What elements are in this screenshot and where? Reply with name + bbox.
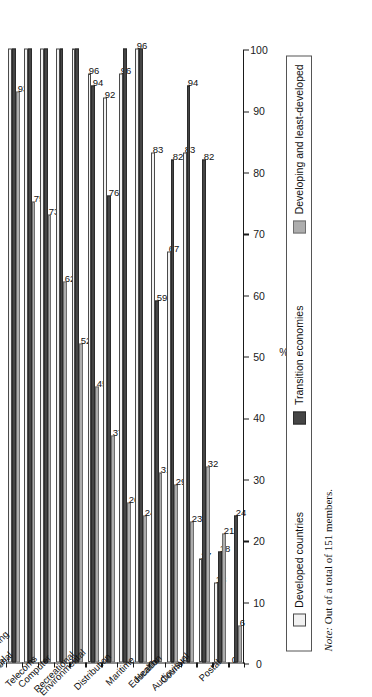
bar-group: 75 — [22, 49, 38, 662]
bar — [79, 343, 83, 662]
value-tick-label: 30 — [247, 473, 271, 485]
bar-value-label: 6 — [240, 617, 245, 627]
value-tick-label: 0 — [247, 657, 271, 669]
value-tick-label: 50 — [247, 350, 271, 362]
value-tick-label: 40 — [247, 411, 271, 423]
bar — [206, 466, 210, 662]
bar — [238, 625, 242, 662]
bar — [190, 521, 194, 662]
bar — [16, 91, 20, 662]
bar-group: 927637 — [101, 49, 117, 662]
legend-label: Transition economies — [293, 305, 305, 404]
bar — [143, 515, 147, 662]
chart-canvas: 9375736252969445927637962696248359316782… — [0, 0, 372, 697]
note-text: Out of a total of 151 members. — [322, 488, 334, 623]
bar — [222, 533, 226, 662]
note-prefix: Note: — [322, 627, 334, 651]
bar-group: 0246 — [228, 49, 244, 662]
bar-group: 678229 — [165, 49, 181, 662]
legend-swatch — [293, 220, 306, 233]
category-tick — [196, 662, 197, 667]
bar — [127, 502, 131, 662]
legend-item: Developed countries — [291, 511, 307, 626]
legend-item: Developing and least-developed — [291, 64, 307, 233]
bar-group: 52 — [69, 49, 85, 662]
value-tick-label: 10 — [247, 596, 271, 608]
bar-group: 835931 — [149, 49, 165, 662]
bar — [95, 386, 99, 662]
category-tick — [228, 662, 229, 667]
value-tick-label: 70 — [247, 227, 271, 239]
bar-value-label: 96 — [89, 65, 100, 75]
chart-figure: 9375736252969445927637962696248359316782… — [0, 0, 372, 697]
plot-area: 9375736252969445927637962696248359316782… — [6, 49, 244, 663]
category-tick — [244, 662, 245, 667]
bar — [159, 472, 163, 662]
legend-label: Developed countries — [293, 511, 305, 607]
legend-item: Transition economies — [291, 305, 307, 423]
bar-group: 93 — [6, 49, 22, 662]
value-tick-label: 60 — [247, 289, 271, 301]
bar — [111, 435, 115, 662]
value-tick-label: 80 — [247, 166, 271, 178]
chart-legend: Developed countriesTransition economiesD… — [286, 55, 312, 651]
legend-label: Developing and least-developed — [293, 64, 305, 214]
category-tick — [85, 662, 86, 667]
bar-group: 178232 — [196, 49, 212, 662]
value-tick-label: 90 — [247, 104, 271, 116]
bar-group: 131821 — [212, 49, 228, 662]
bar-group: 839423 — [181, 49, 197, 662]
chart-note: Note: Out of a total of 151 members. — [322, 488, 334, 651]
bar — [174, 484, 178, 662]
bar-group: 9626 — [117, 49, 133, 662]
bar-value-label: 24 — [236, 507, 247, 517]
legend-swatch — [293, 411, 306, 424]
bar-value-label: 83 — [153, 145, 164, 155]
bar — [32, 202, 36, 663]
bar-group: 62 — [54, 49, 70, 662]
bar — [63, 281, 67, 662]
bars-container: 9375736252969445927637962696248359316782… — [6, 49, 243, 662]
bar — [48, 214, 52, 662]
legend-swatch — [293, 613, 306, 626]
value-tick-label: 100 — [247, 43, 271, 55]
bar-group: 9624 — [133, 49, 149, 662]
bar-group: 969445 — [85, 49, 101, 662]
bar-group: 73 — [38, 49, 54, 662]
bar-value-label: 92 — [105, 89, 116, 99]
value-tick-label: 20 — [247, 534, 271, 546]
